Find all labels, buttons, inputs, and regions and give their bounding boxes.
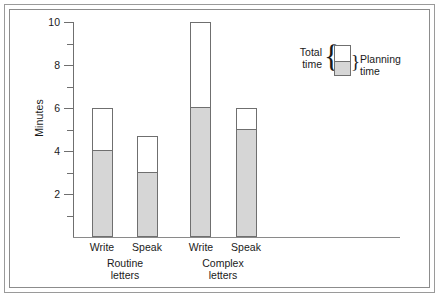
x-axis-line [73,237,400,238]
group-label-complex-line2: letters [178,270,268,282]
group-label-complex-line1: Complex [178,258,268,270]
y-tick-8 [64,65,74,66]
group-label-routine: Routine letters [80,258,170,281]
legend-total-label: Total time [286,47,322,70]
bar-complex-speak-planning [237,129,256,237]
bar-complex-write[interactable] [190,22,211,237]
bar-routine-write-planning [93,150,112,236]
legend-swatch-planning [335,61,350,76]
chart-legend: Total time { } Planning time [286,44,416,90]
x-tick-label-complex-speak: Speak [219,241,273,253]
group-label-complex: Complex letters [178,258,268,281]
legend-planning-label: Planning time [360,54,418,77]
y-tick-5 [67,130,74,131]
legend-planning-line1: Planning [360,54,418,66]
legend-swatch-box [334,45,351,76]
y-tick-2 [64,194,74,195]
legend-total-line1: Total [286,47,322,59]
y-tick-7 [67,87,74,88]
legend-planning-line2: time [360,66,418,78]
chart-figure: 10 8 6 4 2 Minutes [0,0,443,301]
legend-brace-right-icon: } [351,52,360,71]
y-axis-title: Minutes [33,78,45,158]
bar-routine-write[interactable] [92,108,113,237]
bar-routine-speak[interactable] [137,136,158,237]
y-tick-1 [67,216,74,217]
bar-complex-write-planning [191,107,210,236]
y-tick-label-8: 8 [36,60,60,70]
group-label-routine-line1: Routine [80,258,170,270]
y-tick-10 [64,22,74,23]
y-tick-9 [67,44,74,45]
y-tick-label-2: 2 [36,189,60,199]
y-tick-4 [64,151,74,152]
plot-area: 10 8 6 4 2 Minutes [0,0,443,301]
legend-total-line2: time [286,59,322,71]
y-tick-6 [64,108,74,109]
bar-routine-speak-planning [138,172,157,237]
bar-complex-speak[interactable] [236,108,257,237]
y-tick-3 [67,173,74,174]
x-tick-label-routine-speak: Speak [120,241,174,253]
y-tick-label-10: 10 [36,17,60,27]
group-label-routine-line2: letters [80,270,170,282]
